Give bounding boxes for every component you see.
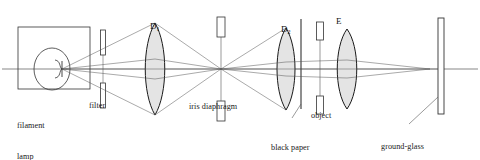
filament-lamp-label-line2: lamp (17, 152, 45, 160)
ground-glass-screen-plate (438, 18, 444, 114)
ground-glass-screen-label: ground-glass screen (381, 122, 424, 160)
filament-lamp-assembly (18, 27, 90, 90)
black-paper-aperture-leader-line (292, 104, 301, 118)
iris-upper-blade (217, 17, 225, 37)
ground-glass-screen-assembly (409, 18, 444, 124)
optical-ray-diagram-figure: D1 D2 E filament lamp filter iris diaphr… (0, 0, 480, 160)
ray-bundle-lens-e-to-screen (347, 60, 438, 78)
filter-upper-blade (101, 30, 106, 55)
ray-paraxial-lower-lamp-d1 (62, 69, 155, 79)
object-assembly (317, 22, 324, 114)
ground-glass-screen-leader-line (409, 97, 438, 124)
ray-marginal-lower-lamp-d1 (62, 69, 155, 115)
black-paper-aperture-label-line1: black paper (271, 143, 310, 153)
ray-paraxial-upper-lamp-d1 (62, 59, 155, 69)
filter-label: filter (89, 101, 105, 111)
lens-d1-label: D1 (141, 11, 160, 41)
lens-d2-label: D2 (272, 14, 291, 44)
ray-upper-e-screen (347, 60, 430, 69)
ray-lower-e-screen (347, 69, 430, 78)
ground-glass-screen-label-line1: ground-glass (381, 142, 424, 152)
filament-lamp-label-line1: filament (17, 121, 45, 131)
lens-e-label: E (336, 16, 342, 26)
black-paper-aperture-label: black paper aperture (271, 123, 310, 160)
object-upper-blade (317, 22, 324, 40)
filament-lamp-label: filament lamp (17, 101, 45, 160)
object-label: object (311, 111, 331, 121)
iris-diaphragm-label: iris diaphragm (189, 102, 237, 112)
lamp-housing (18, 27, 90, 89)
